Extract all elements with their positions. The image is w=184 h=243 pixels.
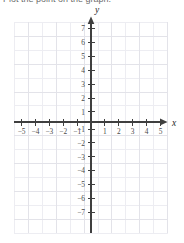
x-tick-label: −5 xyxy=(18,127,26,136)
y-tick-label: −7 xyxy=(77,208,85,217)
x-tick-label: −3 xyxy=(45,127,53,136)
coordinate-graph-svg: −5 −4 −3 −2 −1 1 2 3 4 5 7 6 5 4 3 2 1 −… xyxy=(0,0,184,243)
y-tick-label: −2 xyxy=(77,139,85,148)
x-tick-label: −4 xyxy=(32,127,40,136)
x-tick-label: 1 xyxy=(103,127,107,136)
x-tick-label: 2 xyxy=(117,127,121,136)
y-tick-label: −3 xyxy=(77,153,85,162)
y-tick-label: −6 xyxy=(77,194,85,203)
y-tick-label: −4 xyxy=(77,166,85,175)
y-axis-label: y xyxy=(94,5,100,15)
y-tick-label: −5 xyxy=(77,180,85,189)
y-tick-label: 1 xyxy=(81,108,85,117)
x-tick-label: 4 xyxy=(145,127,149,136)
x-tick-label: 3 xyxy=(131,127,135,136)
y-tick-label: 4 xyxy=(81,66,85,75)
y-tick-label: 6 xyxy=(81,38,85,47)
y-tick-label: 5 xyxy=(81,52,85,61)
y-tick-label: −1 xyxy=(77,125,85,134)
x-tick-label: 5 xyxy=(159,127,163,136)
x-tick-label: −2 xyxy=(59,127,67,136)
coordinate-graph: −5 −4 −3 −2 −1 1 2 3 4 5 7 6 5 4 3 2 1 −… xyxy=(0,0,184,243)
y-tick-label: 7 xyxy=(81,24,85,33)
x-axis-label: x xyxy=(171,118,177,128)
y-tick-label: 2 xyxy=(81,94,85,103)
y-tick-label: 3 xyxy=(81,80,85,89)
